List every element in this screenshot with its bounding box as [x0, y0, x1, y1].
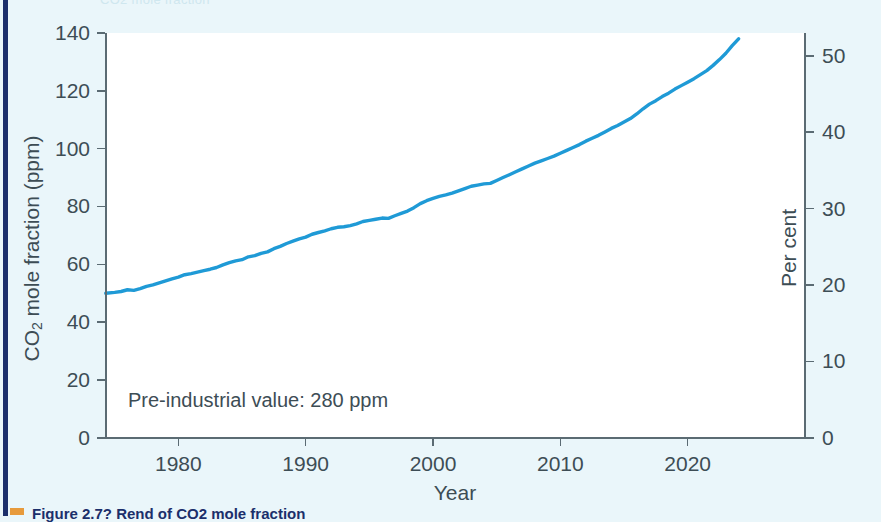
pre-industrial-annotation: Pre-industrial value: 280 ppm: [128, 389, 388, 412]
y-axis-line: [105, 33, 107, 439]
y-tick-120: [97, 90, 105, 92]
y2-tick-label-40: 40: [822, 120, 845, 144]
y-tick-140: [97, 32, 105, 34]
x-tick-2020: [687, 438, 689, 446]
x-tick-1980: [178, 438, 180, 446]
y-tick-20: [97, 379, 105, 381]
y-axis-title-prefix: CO: [20, 330, 43, 362]
y-axis-title-subscript: 2: [29, 322, 45, 330]
y2-tick-label-10: 10: [822, 349, 845, 373]
x-tick-1990: [305, 438, 307, 446]
y2-tick-30: [806, 208, 814, 210]
y2-axis-title: Per cent: [777, 128, 801, 368]
y-tick-label-140: 140: [20, 21, 90, 45]
y-tick-0: [97, 437, 105, 439]
y2-tick-50: [806, 55, 814, 57]
x-axis-line: [105, 437, 806, 439]
x-tick-2010: [560, 438, 562, 446]
x-tick-label-1980: 1980: [155, 452, 202, 476]
x-tick-label-2010: 2010: [537, 452, 584, 476]
y2-tick-label-20: 20: [822, 273, 845, 297]
x-tick-label-2020: 2020: [664, 452, 711, 476]
y2-axis-line: [804, 33, 806, 439]
y-tick-40: [97, 321, 105, 323]
y2-tick-0: [806, 437, 814, 439]
y-axis-title: CO2 mole fraction (ppm): [20, 69, 45, 429]
plot-area: [105, 33, 805, 438]
y2-tick-label-30: 30: [822, 197, 845, 221]
y-tick-80: [97, 206, 105, 208]
x-tick-label-1990: 1990: [282, 452, 329, 476]
y2-tick-label-50: 50: [822, 44, 845, 68]
y2-tick-10: [806, 361, 814, 363]
x-tick-2000: [432, 438, 434, 446]
x-tick-label-2000: 2000: [410, 452, 457, 476]
y-tick-100: [97, 148, 105, 150]
y2-tick-label-0: 0: [822, 426, 834, 450]
figure-caption: Figure 2.7? Rend of CO2 mole fraction: [32, 505, 305, 522]
y2-tick-20: [806, 284, 814, 286]
x-axis-title: Year: [305, 481, 605, 505]
y-tick-60: [97, 264, 105, 266]
y-tick-label-0: 0: [20, 426, 90, 450]
y-axis-title-rest: mole fraction (ppm): [20, 135, 43, 322]
y2-tick-40: [806, 131, 814, 133]
caption-marker-icon: [10, 508, 24, 515]
